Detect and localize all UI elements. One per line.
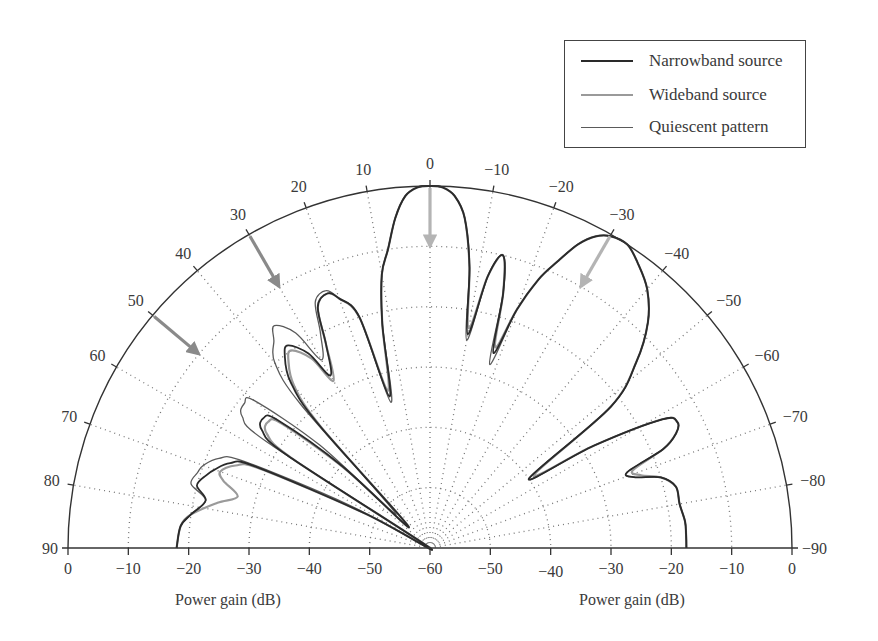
grid-spoke	[306, 208, 430, 548]
legend-label-narrowband: Narrowband source	[649, 51, 783, 71]
grid-spoke	[116, 367, 430, 548]
legend-label-quiescent: Quiescent pattern	[649, 117, 768, 137]
grid-spoke	[367, 191, 430, 548]
x-axis-label-left: Power gain (dB)	[175, 591, 281, 609]
angle-label: −40	[664, 245, 689, 262]
grid-spoke	[430, 485, 787, 548]
grid-spoke	[430, 367, 744, 548]
legend-swatch-narrowband	[581, 60, 633, 62]
gain-label-left: −20	[176, 560, 201, 577]
angle-label: 50	[128, 292, 144, 309]
angle-tick	[68, 484, 74, 485]
direction-arrow-icon	[250, 236, 279, 286]
gain-label-left: −30	[236, 560, 261, 577]
direction-arrow-icon	[154, 317, 198, 354]
legend-item-narrowband: Narrowband source	[565, 49, 805, 73]
angle-label: 80	[44, 472, 60, 489]
legend-item-wideband: Wideband source	[565, 83, 805, 107]
angle-label: −20	[549, 178, 574, 195]
angle-tick	[493, 186, 494, 192]
angle-label: −70	[783, 408, 808, 425]
angle-label: 30	[230, 206, 246, 223]
angle-label: 20	[291, 178, 307, 195]
angle-label: 40	[175, 245, 191, 262]
direction-arrow-icon	[581, 236, 610, 286]
grid-spoke	[73, 485, 430, 548]
angle-label: 10	[355, 161, 371, 178]
angle-tick	[744, 364, 749, 367]
angle-tick	[111, 364, 116, 367]
grid-spoke	[90, 424, 430, 548]
angle-label: −30	[609, 206, 634, 223]
gain-label-right: −40	[538, 563, 563, 580]
legend-item-quiescent: Quiescent pattern	[565, 115, 805, 139]
angle-tick	[770, 422, 776, 424]
legend-swatch-wideband	[581, 94, 633, 96]
angle-label: −10	[484, 161, 509, 178]
legend-label-wideband: Wideband source	[649, 85, 767, 105]
angle-tick	[611, 229, 614, 234]
angle-label: 70	[61, 408, 77, 425]
gain-label-right: −10	[719, 560, 744, 577]
gain-label-right: 0	[788, 560, 796, 577]
gain-label-left: −10	[116, 560, 141, 577]
grid-spoke	[430, 191, 493, 548]
grid-spoke	[430, 208, 554, 548]
gain-label-left: 0	[64, 560, 72, 577]
gain-label-right: −20	[659, 560, 684, 577]
gain-label-left: −50	[357, 560, 382, 577]
x-axis-label-right: Power gain (dB)	[579, 591, 685, 609]
axis-labels: 9080706050403020100−10−20−30−40−50−60−70…	[42, 155, 827, 580]
legend: Narrowband source Wideband source Quiesc…	[564, 40, 806, 148]
angle-label: 0	[426, 155, 434, 172]
angle-tick	[366, 186, 367, 192]
gain-label-left: −60	[417, 560, 442, 577]
angle-label: −60	[755, 347, 780, 364]
angle-tick	[554, 202, 556, 208]
angle-tick	[707, 311, 712, 315]
angle-tick	[84, 422, 90, 424]
grid-spoke	[430, 315, 707, 548]
grid-spoke	[197, 271, 430, 548]
gain-label-left: −40	[297, 560, 322, 577]
angle-label: −50	[716, 292, 741, 309]
gain-label-right: −50	[478, 560, 503, 577]
angle-label: 60	[89, 347, 105, 364]
gain-label-right: −30	[598, 560, 623, 577]
angle-label: −90	[802, 540, 827, 557]
angle-tick	[663, 266, 667, 271]
legend-swatch-quiescent	[581, 127, 633, 128]
angle-tick	[246, 229, 249, 234]
angle-tick	[193, 266, 197, 271]
angle-tick	[148, 311, 153, 315]
angle-tick	[304, 202, 306, 208]
angle-label: 90	[42, 540, 58, 557]
angle-tick	[787, 484, 793, 485]
angle-label: −80	[800, 472, 825, 489]
